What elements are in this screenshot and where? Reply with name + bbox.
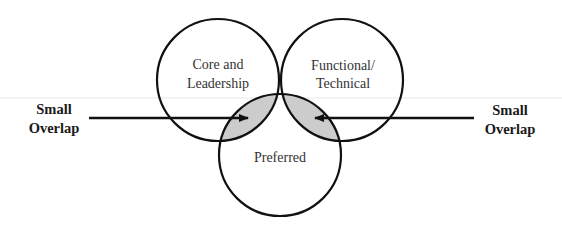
- right-annotation-line1: Small: [492, 102, 527, 118]
- label-core-line1: Core and: [193, 57, 244, 72]
- label-core-line2: Leadership: [187, 76, 249, 91]
- label-preferred: Preferred: [254, 150, 306, 165]
- label-functional-line2: Technical: [316, 76, 370, 91]
- left-annotation-line2: Overlap: [29, 120, 80, 136]
- label-functional-line1: Functional/: [311, 58, 375, 73]
- left-annotation-line1: Small: [36, 101, 71, 117]
- right-annotation-line2: Overlap: [485, 121, 536, 137]
- venn-diagram: Core and Leadership Functional/ Technica…: [0, 0, 562, 238]
